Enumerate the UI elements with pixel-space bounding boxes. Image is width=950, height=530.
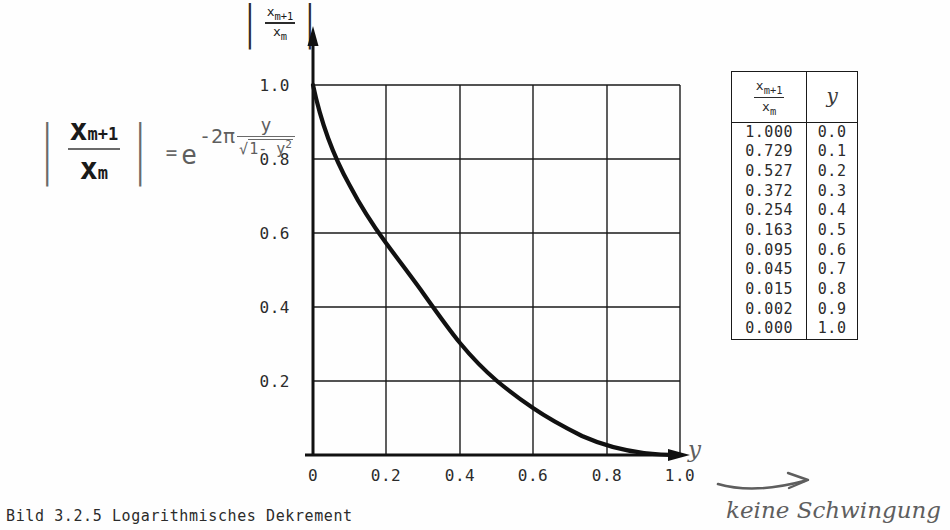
x-tick-1-0: 1.0 [657, 466, 703, 485]
table-row: 0.5270.2 [732, 162, 857, 182]
exponent-fraction-bar [237, 136, 295, 138]
cell-ratio: 0.045 [732, 260, 807, 280]
cell-y: 1.0 [807, 319, 857, 339]
header-den-x: x [762, 99, 770, 114]
exponent-denominator: √1- y2 [237, 138, 295, 158]
cell-ratio: 0.015 [732, 280, 807, 300]
header-fraction-bar [754, 97, 785, 99]
y-tick-0-2: 0.2 [244, 372, 290, 391]
cell-y: 0.7 [807, 260, 857, 280]
formula-bar-right-icon: | [133, 123, 148, 175]
figure-page: | xm+1 xm | [0, 0, 950, 530]
x-axis-variable-label: y [688, 436, 701, 462]
header-y-symbol: y [826, 84, 837, 108]
exponent-pi: 2π [211, 124, 235, 148]
x-tick-0-4: 0.4 [437, 466, 483, 485]
decay-curve [313, 85, 680, 455]
formula-num-x: x [70, 112, 88, 147]
table-body: 1.0000.0 0.7290.1 0.5270.2 0.3720.3 0.25… [732, 122, 857, 339]
grid-lines [313, 85, 680, 455]
cell-ratio: 0.163 [732, 221, 807, 241]
cell-ratio: 1.000 [732, 122, 807, 142]
cell-y: 0.0 [807, 122, 857, 142]
table-header-ratio: xm+1 xm [732, 72, 807, 122]
formula-equals: = [166, 141, 177, 163]
x-tick-0-2: 0.2 [363, 466, 409, 485]
cell-y: 0.2 [807, 162, 857, 182]
y-tick-0-4: 0.4 [244, 298, 290, 317]
cell-y: 0.8 [807, 280, 857, 300]
cell-y: 0.1 [807, 142, 857, 162]
formula-fraction-bar [68, 148, 121, 150]
table-header-y: y [807, 72, 857, 122]
table-row: 1.0000.0 [732, 122, 857, 142]
formula-base-e: e [181, 140, 197, 170]
table-row: 0.2540.4 [732, 201, 857, 221]
x-tick-0-6: 0.6 [510, 466, 556, 485]
cell-ratio: 0.254 [732, 201, 807, 221]
header-den-sub: m [770, 105, 776, 117]
exponent-numerator: y [259, 114, 274, 135]
exponent-sign: - [199, 124, 211, 148]
figure-caption: Bild 3.2.5 Logarithmisches Dekrement [6, 507, 353, 525]
cell-ratio: 0.002 [732, 300, 807, 320]
x-tick-0: 0 [290, 466, 336, 485]
exponent-denom-power: 2 [285, 138, 292, 151]
table-row: 0.0450.7 [732, 260, 857, 280]
y-axis-arrowhead-icon [308, 26, 319, 46]
table-row: 0.3720.3 [732, 182, 857, 202]
cell-y: 0.9 [807, 300, 857, 320]
cell-ratio: 0.729 [732, 142, 807, 162]
cell-y: 0.6 [807, 241, 857, 261]
table-row: 0.0020.9 [732, 300, 857, 320]
formula-bar-left-icon: | [40, 123, 55, 175]
formula-den-sub: m [98, 163, 108, 183]
table-row: 0.0150.8 [732, 280, 857, 300]
cell-ratio: 0.000 [732, 319, 807, 339]
table-row: 0.7290.1 [732, 142, 857, 162]
table-row: 0.0001.0 [732, 319, 857, 339]
handwritten-formula: | xm+1 xm | = e -2π y √1- y2 [28, 112, 296, 186]
cell-ratio: 0.527 [732, 162, 807, 182]
values-table: xm+1 xm y 1.0000.0 0.7290.1 0.5270.2 0.3… [731, 71, 858, 340]
formula-num-sub: m+1 [88, 124, 119, 144]
cell-y: 0.3 [807, 182, 857, 202]
handwritten-arrow-icon [716, 470, 826, 496]
table-row: 0.1630.5 [732, 221, 857, 241]
handwritten-note: keine Schwingung [726, 497, 941, 523]
cell-ratio: 0.095 [732, 241, 807, 261]
header-num-sub: m+1 [764, 84, 783, 96]
cell-y: 0.5 [807, 221, 857, 241]
y-tick-1-0: 1.0 [244, 76, 290, 95]
cell-y: 0.4 [807, 201, 857, 221]
exponent-denom-inner: 1- y [249, 140, 285, 158]
formula-den-x: x [80, 151, 98, 186]
cell-ratio: 0.372 [732, 182, 807, 202]
formula-exponent: -2π y √1- y2 [199, 114, 296, 159]
x-tick-0-8: 0.8 [584, 466, 630, 485]
table-row: 0.0950.6 [732, 241, 857, 261]
y-tick-0-6: 0.6 [244, 224, 290, 243]
header-num-x: x [756, 78, 764, 93]
table-header-row: xm+1 xm y [732, 72, 857, 122]
axes [305, 36, 672, 455]
